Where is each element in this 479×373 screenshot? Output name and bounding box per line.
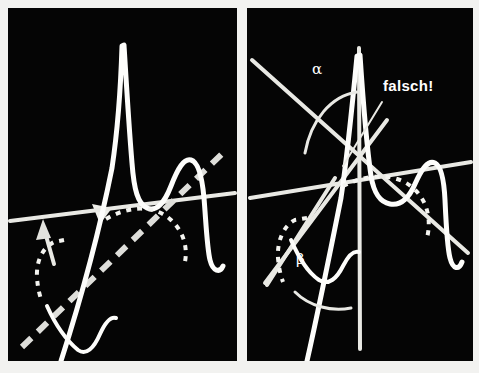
horizontal-line xyxy=(10,193,235,221)
figure-root: α β falsch! xyxy=(0,0,479,373)
alpha-label: α xyxy=(312,62,322,77)
vertical-line xyxy=(359,48,360,349)
left-diagram-panel xyxy=(8,8,237,361)
beta-label: β xyxy=(296,252,305,267)
up-arrow-head xyxy=(36,219,51,240)
peaked-curve xyxy=(307,55,462,361)
peaked-curve xyxy=(61,45,223,361)
falsch-label: falsch! xyxy=(383,78,433,93)
dotted-arc xyxy=(106,209,186,266)
left-diagram-drawing xyxy=(8,8,237,361)
right-diagram-panel xyxy=(247,8,473,361)
right-diagram-drawing xyxy=(247,8,473,361)
